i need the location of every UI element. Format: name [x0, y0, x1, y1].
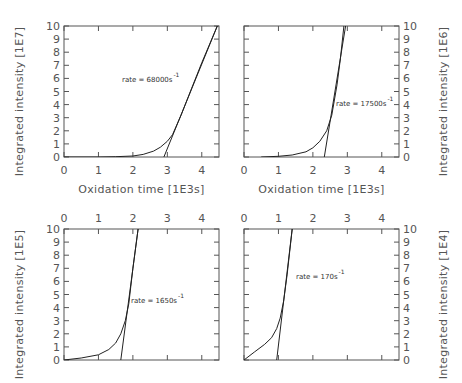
linear-fit-line: [121, 229, 138, 360]
y-tick-label: 5: [403, 86, 410, 99]
x-tick-label: 3: [164, 164, 171, 177]
y-axis-title: Integrated intensity [1E7]: [13, 27, 26, 177]
y-tick-label: 5: [53, 289, 60, 302]
x-tick-label: 1: [275, 212, 282, 225]
y-tick-label: 3: [53, 315, 60, 328]
y-axis-title: Integrated intensity [1E5]: [13, 230, 26, 380]
y-tick-label: 2: [53, 328, 60, 341]
y-tick-label: 4: [53, 302, 60, 315]
plot-frame: [64, 229, 219, 360]
y-tick-label: 10: [46, 223, 60, 236]
x-tick-label: 0: [61, 164, 68, 177]
rate-superscript: -1: [173, 71, 179, 78]
y-tick-label: 3: [53, 112, 60, 125]
plot-frame: [244, 26, 399, 157]
y-tick-label: 6: [53, 275, 60, 288]
x-tick-label: 2: [309, 164, 316, 177]
y-tick-label: 10: [46, 20, 60, 33]
y-tick-label: 6: [403, 275, 410, 288]
rate-annotation: rate = 170s: [296, 273, 338, 281]
y-tick-label: 1: [403, 138, 410, 151]
x-tick-label: 4: [198, 164, 205, 177]
data-curve: [64, 229, 138, 360]
rate-annotation: rate = 68000s: [122, 76, 173, 84]
x-axis-title: Oxidation time [1E3s]: [258, 183, 384, 196]
y-tick-label: 5: [403, 289, 410, 302]
y-axis-title: Integrated intensity [1E4]: [437, 230, 450, 380]
x-tick-label: 3: [164, 212, 171, 225]
y-tick-label: 4: [53, 99, 60, 112]
figure-four-panel-oxidation: 01234012345678910Oxidation time [1E3s]In…: [0, 0, 462, 383]
panel-bottom-right: 01234012345678910Integrated intensity [1…: [241, 212, 451, 379]
data-curve: [64, 26, 217, 157]
data-curve: [244, 229, 292, 360]
x-axis-title: Oxidation time [1E3s]: [78, 183, 204, 196]
y-tick-label: 7: [53, 59, 60, 72]
rate-superscript: -1: [339, 268, 345, 275]
x-tick-label: 0: [241, 164, 248, 177]
y-axis-title: Integrated intensity [1E6]: [437, 27, 450, 177]
y-tick-label: 7: [403, 262, 410, 275]
panel-top-left: 01234012345678910Oxidation time [1E3s]In…: [13, 20, 219, 196]
y-tick-label: 6: [53, 72, 60, 85]
x-tick-label: 2: [129, 212, 136, 225]
linear-fit-line: [277, 229, 293, 360]
x-tick-label: 4: [378, 164, 385, 177]
x-tick-label: 1: [95, 164, 102, 177]
data-curve: [261, 26, 344, 157]
y-tick-label: 1: [403, 341, 410, 354]
y-tick-label: 9: [53, 33, 60, 46]
y-tick-label: 2: [403, 328, 410, 341]
y-tick-label: 2: [403, 125, 410, 138]
x-tick-label: 0: [61, 212, 68, 225]
chart-canvas: 01234012345678910Oxidation time [1E3s]In…: [0, 0, 462, 383]
y-tick-label: 1: [53, 138, 60, 151]
x-tick-label: 2: [309, 212, 316, 225]
y-tick-label: 10: [403, 20, 417, 33]
y-tick-label: 2: [53, 125, 60, 138]
y-tick-label: 0: [53, 354, 60, 367]
x-tick-label: 4: [378, 212, 385, 225]
y-tick-label: 7: [403, 59, 410, 72]
panel-top-right: 01234012345678910Oxidation time [1E3s]In…: [241, 20, 451, 196]
linear-fit-line: [164, 26, 217, 157]
linear-fit-line: [324, 26, 345, 157]
y-tick-label: 8: [403, 46, 410, 59]
y-tick-label: 8: [53, 249, 60, 262]
y-tick-label: 5: [53, 86, 60, 99]
y-tick-label: 9: [403, 33, 410, 46]
x-tick-label: 2: [129, 164, 136, 177]
y-tick-label: 3: [403, 112, 410, 125]
y-tick-label: 10: [403, 223, 417, 236]
y-tick-label: 4: [403, 302, 410, 315]
x-tick-label: 1: [275, 164, 282, 177]
panel-bottom-left: 01234012345678910Integrated intensity [1…: [13, 212, 219, 379]
y-tick-label: 9: [53, 236, 60, 249]
plot-frame: [64, 26, 219, 157]
y-tick-label: 8: [403, 249, 410, 262]
y-tick-label: 0: [53, 151, 60, 164]
y-tick-label: 3: [403, 315, 410, 328]
rate-superscript: -1: [178, 292, 184, 299]
plot-frame: [244, 229, 399, 360]
y-tick-label: 9: [403, 236, 410, 249]
x-tick-label: 4: [198, 212, 205, 225]
y-tick-label: 6: [403, 72, 410, 85]
rate-annotation: rate = 1650s: [131, 297, 177, 305]
rate-superscript: -1: [387, 95, 393, 102]
x-tick-label: 1: [95, 212, 102, 225]
x-tick-label: 3: [344, 212, 351, 225]
y-tick-label: 1: [53, 341, 60, 354]
x-tick-label: 3: [344, 164, 351, 177]
y-tick-label: 4: [403, 99, 410, 112]
x-tick-label: 0: [241, 212, 248, 225]
y-tick-label: 8: [53, 46, 60, 59]
y-tick-label: 0: [403, 151, 410, 164]
y-tick-label: 0: [403, 354, 410, 367]
rate-annotation: rate = 17500s: [336, 100, 387, 108]
y-tick-label: 7: [53, 262, 60, 275]
